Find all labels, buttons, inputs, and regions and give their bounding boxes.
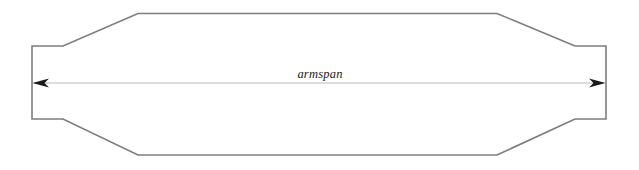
- diagram-canvas: armspan: [0, 0, 639, 170]
- canvas-background: [0, 0, 639, 170]
- diagram-root: armspan: [0, 0, 639, 170]
- armspan-label: armspan: [297, 67, 342, 81]
